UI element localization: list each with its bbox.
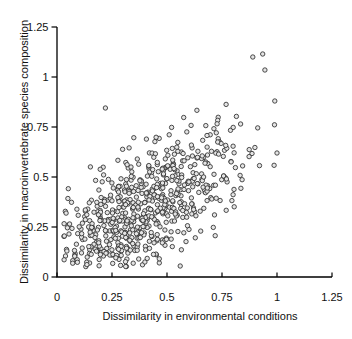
data-point	[65, 249, 69, 253]
data-point	[131, 205, 135, 209]
data-point	[178, 264, 182, 268]
data-point	[77, 225, 81, 229]
data-point	[240, 164, 244, 168]
data-point	[92, 210, 96, 214]
data-point	[185, 130, 189, 134]
data-point	[130, 185, 134, 189]
data-point	[138, 235, 142, 239]
data-point	[165, 148, 169, 152]
data-point	[272, 123, 276, 127]
data-point	[154, 185, 158, 189]
data-point	[178, 200, 182, 204]
data-point	[129, 174, 133, 178]
data-point	[118, 263, 122, 267]
data-point	[172, 219, 176, 223]
data-point	[124, 264, 128, 268]
data-point	[136, 205, 140, 209]
data-point	[136, 188, 140, 192]
data-point	[111, 261, 115, 265]
y-axis-tick-labels: 00.250.50.7511.25	[27, 21, 48, 283]
data-point	[95, 228, 99, 232]
data-point	[224, 177, 228, 181]
data-point	[110, 211, 114, 215]
data-point	[135, 248, 139, 252]
data-point	[103, 106, 107, 110]
data-point	[125, 163, 129, 167]
data-point	[147, 163, 151, 167]
data-point	[90, 225, 94, 229]
data-point	[62, 234, 66, 238]
data-point	[72, 248, 76, 252]
data-point	[131, 189, 135, 193]
data-point	[224, 143, 228, 147]
x-axis-title: Dissimilarity in environmental condition…	[102, 310, 298, 322]
data-point	[176, 140, 180, 144]
data-point	[175, 145, 179, 149]
data-point	[123, 202, 127, 206]
data-point	[132, 136, 136, 140]
data-point	[62, 258, 66, 262]
data-point	[130, 170, 134, 174]
data-point	[144, 182, 148, 186]
data-point	[233, 165, 237, 169]
data-point	[157, 257, 161, 261]
data-point	[147, 198, 151, 202]
data-point	[171, 158, 175, 162]
data-point	[85, 213, 89, 217]
data-point	[140, 191, 144, 195]
data-point	[69, 200, 73, 204]
data-point	[117, 205, 121, 209]
data-point	[104, 251, 108, 255]
data-point	[97, 264, 101, 268]
data-point	[149, 230, 153, 234]
data-point	[273, 99, 277, 103]
data-point	[108, 193, 112, 197]
data-point	[185, 215, 189, 219]
data-point	[192, 176, 196, 180]
data-point	[100, 180, 104, 184]
data-point	[71, 261, 75, 265]
data-point	[247, 154, 251, 158]
data-point	[189, 196, 193, 200]
data-point	[240, 178, 244, 182]
data-point	[131, 261, 135, 265]
data-point	[195, 108, 199, 112]
data-point	[205, 133, 209, 137]
data-point	[136, 200, 140, 204]
data-point	[123, 260, 127, 264]
data-point	[94, 249, 98, 253]
data-point	[116, 158, 120, 162]
data-point	[197, 190, 201, 194]
data-point	[166, 214, 170, 218]
data-point	[138, 179, 142, 183]
data-point	[141, 212, 145, 216]
data-point	[196, 149, 200, 153]
data-point	[87, 244, 91, 248]
data-point	[205, 145, 209, 149]
data-point	[224, 102, 228, 106]
data-point	[165, 176, 169, 180]
data-point	[148, 207, 152, 211]
data-point	[170, 174, 174, 178]
data-point	[201, 185, 205, 189]
data-point	[147, 246, 151, 250]
data-point	[195, 181, 199, 185]
data-point	[111, 216, 115, 220]
data-point	[110, 199, 114, 203]
data-point	[125, 219, 129, 223]
data-point	[124, 246, 128, 250]
data-point	[152, 155, 156, 159]
data-point	[118, 218, 122, 222]
data-point	[216, 152, 220, 156]
data-point	[193, 236, 197, 240]
data-point	[159, 196, 163, 200]
x-tick-label: 0.75	[211, 291, 232, 303]
data-point	[221, 154, 225, 158]
data-point	[65, 226, 69, 230]
data-point	[155, 160, 159, 164]
data-point	[134, 184, 138, 188]
data-point	[214, 196, 218, 200]
data-point	[208, 165, 212, 169]
data-point	[169, 125, 173, 129]
data-point	[212, 213, 216, 217]
